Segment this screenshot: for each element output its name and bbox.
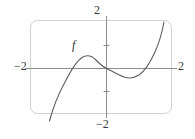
curve-label-f: f [72, 39, 75, 51]
axis-label-bottom: −2 [96, 118, 109, 130]
axis-label-right: 2 [178, 60, 184, 72]
axis-label-top: 2 [94, 4, 100, 16]
axis-label-left: −2 [14, 60, 27, 72]
